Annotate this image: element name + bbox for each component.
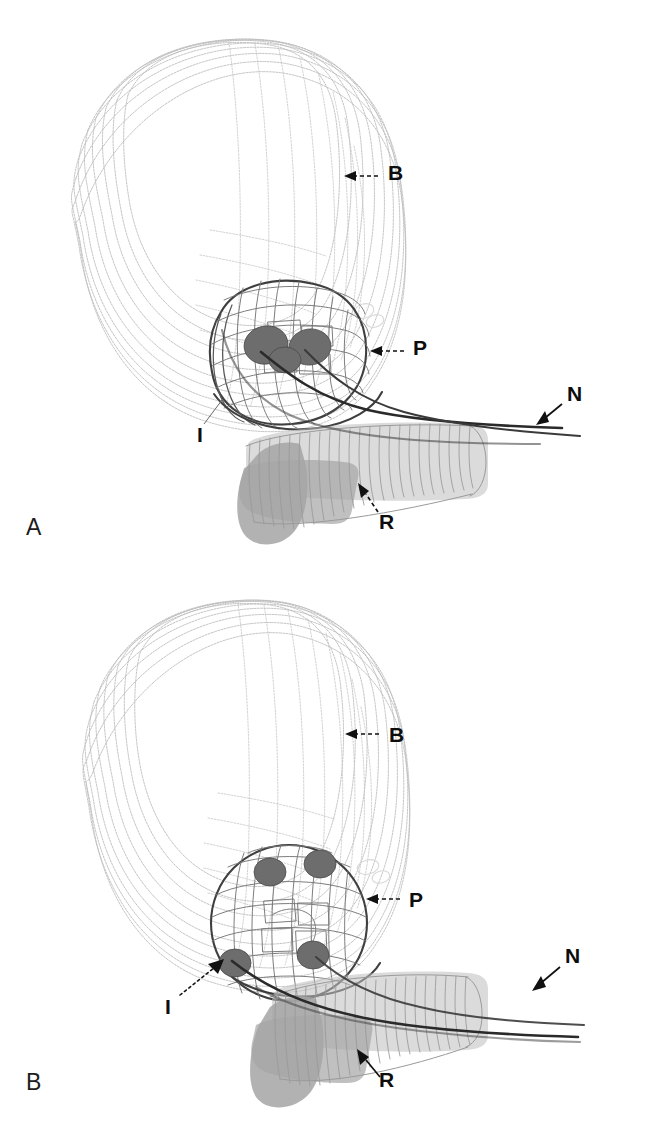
label-prostate-a: P bbox=[413, 337, 427, 358]
panel-a-illustration bbox=[0, 0, 646, 565]
panel-b: B B P N I R bbox=[0, 565, 646, 1129]
label-bladder-b: B bbox=[389, 724, 404, 745]
label-implant-a: I bbox=[197, 424, 203, 445]
bladder-wireframe bbox=[71, 39, 405, 432]
label-rectum-a: R bbox=[379, 511, 394, 532]
rectum-wireframe bbox=[237, 423, 488, 545]
figure-root: A B P N I R bbox=[0, 0, 646, 1129]
panel-letter-a: A bbox=[26, 516, 42, 539]
panel-letter-b: B bbox=[26, 1071, 42, 1094]
label-implant-b: I bbox=[165, 996, 171, 1017]
panel-b-illustration bbox=[0, 565, 646, 1129]
label-prostate-b: P bbox=[409, 889, 423, 910]
label-rectum-b: R bbox=[379, 1069, 394, 1090]
label-neurovascular-a: N bbox=[567, 383, 582, 404]
bladder-wireframe bbox=[83, 600, 410, 993]
label-neurovascular-b: N bbox=[565, 945, 580, 966]
panel-a: A B P N I R bbox=[0, 0, 646, 565]
label-bladder-a: B bbox=[388, 162, 403, 183]
